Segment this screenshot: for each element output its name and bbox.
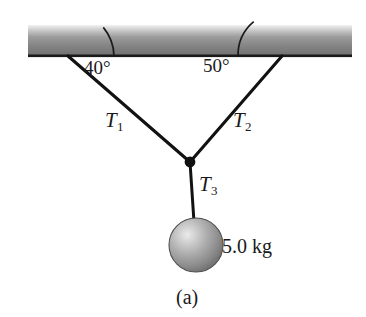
- tension-t1-subscript: 1: [117, 119, 124, 134]
- figure-caption: (a): [176, 287, 198, 307]
- angle-label-right: 50°: [203, 56, 230, 75]
- physics-tension-diagram: 40° 50° T1 T2 T3 5.0 kg (a): [0, 0, 366, 317]
- angle-label-left: 40°: [84, 58, 111, 77]
- tension-label-t3: T3: [199, 174, 217, 195]
- diagram-canvas: [0, 0, 366, 317]
- tension-label-t1: T1: [105, 110, 123, 131]
- tension-t3-subscript: 3: [211, 183, 218, 198]
- tension-t2-symbol: T: [233, 108, 245, 132]
- tension-t3-symbol: T: [199, 172, 211, 196]
- ceiling-bar: [28, 25, 352, 57]
- tension-t2-subscript: 2: [245, 119, 252, 134]
- tension-label-t2: T2: [233, 110, 251, 131]
- rope-t3: [190, 162, 194, 222]
- tension-t1-symbol: T: [105, 108, 117, 132]
- knot-junction: [185, 157, 196, 168]
- mass-label: 5.0 kg: [222, 236, 272, 256]
- hanging-mass-sphere: [169, 218, 223, 272]
